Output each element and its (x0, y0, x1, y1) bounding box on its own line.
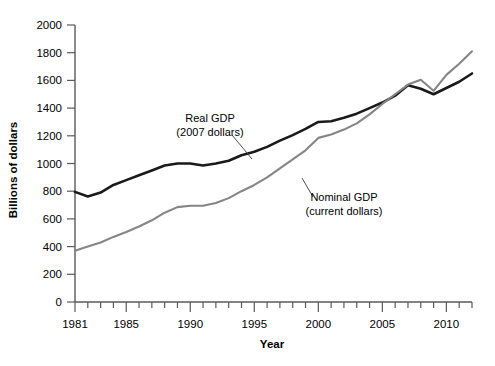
y-tick-label: 800 (43, 185, 62, 197)
gdp-line-chart: 0200400600800100012001400160018002000 19… (0, 0, 495, 366)
y-axis-title: Billions of dollars (7, 122, 19, 218)
y-tick-label: 1600 (36, 74, 62, 86)
x-tick-label: 1981 (62, 318, 88, 330)
series-line-nominal-gdp (75, 51, 472, 250)
y-tick-label: 600 (43, 213, 62, 225)
y-tick-label: 1400 (36, 102, 62, 114)
real-gdp-annotation-subtitle: (2007 dollars) (176, 126, 243, 138)
x-axis-title: Year (260, 338, 285, 350)
y-tick-label: 0 (56, 296, 62, 308)
chart-canvas: 0200400600800100012001400160018002000 19… (0, 0, 495, 366)
series-line-real-gdp (75, 73, 472, 196)
x-tick-label: 1985 (113, 318, 139, 330)
y-tick-label: 2000 (36, 19, 62, 31)
data-series-group (75, 51, 472, 250)
y-tick-label: 400 (43, 241, 62, 253)
y-tick-label: 1200 (36, 130, 62, 142)
x-tick-label: 1995 (241, 318, 267, 330)
y-tick-label: 1800 (36, 47, 62, 59)
nominal-gdp-annotation-subtitle: (current dollars) (305, 205, 382, 217)
nominal-gdp-annotation-title: Nominal GDP (310, 191, 377, 203)
x-axis-ticks: 1981198519901995200020052010 (62, 302, 472, 330)
x-tick-label: 2005 (370, 318, 396, 330)
x-tick-label: 1990 (177, 318, 203, 330)
y-tick-label: 200 (43, 268, 62, 280)
y-tick-label: 1000 (36, 158, 62, 170)
x-tick-label: 2000 (306, 318, 332, 330)
y-axis-ticks: 0200400600800100012001400160018002000 (36, 19, 75, 308)
x-tick-label: 2010 (434, 318, 460, 330)
real-gdp-annotation-title: Real GDP (185, 112, 235, 124)
